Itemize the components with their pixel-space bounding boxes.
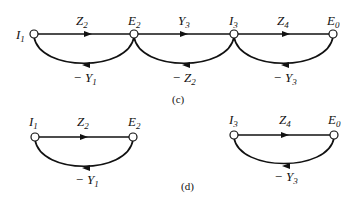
- node-label-I1: I1: [28, 114, 38, 131]
- edge-E2-I1-feedback: [34, 37, 134, 63]
- node-label-E0: E0: [327, 112, 341, 129]
- edge-label-neg-Y3: − Y3: [273, 70, 297, 87]
- edge-E0-I3-feedback: [234, 138, 334, 164]
- edge-I3-E2-feedback: [134, 37, 234, 63]
- edge-label-Y3: Y3: [178, 13, 190, 30]
- node-E2: [129, 133, 137, 141]
- graph-d-right: I3 E0 Z4 − Y3: [228, 112, 341, 186]
- node-label-E2: E2: [127, 13, 141, 30]
- edge-label-Z2: Z2: [77, 114, 89, 131]
- edge-label-Z4: Z4: [277, 13, 289, 30]
- edge-label-Z4: Z4: [279, 112, 291, 129]
- arrow-icon: [180, 31, 188, 37]
- node-label-E2: E2: [127, 114, 141, 131]
- node-E0: [330, 131, 338, 139]
- node-E0: [329, 30, 337, 38]
- arrow-icon: [281, 132, 289, 138]
- arrow-icon: [80, 134, 88, 140]
- edge-E2-I1-feedback: [35, 140, 133, 166]
- node-I1: [31, 133, 39, 141]
- graph-d-left: I1 E2 Z2 − Y1: [28, 114, 141, 189]
- signal-flow-graph: I1 E2 I3 E0 Z2 Y3 Z4 − Y1 − Z2 − Y3 (c) …: [0, 0, 358, 210]
- graph-c: I1 E2 I3 E0 Z2 Y3 Z4 − Y1 − Z2 − Y3 (c): [15, 13, 340, 106]
- node-I1: [30, 30, 38, 38]
- node-I3: [230, 131, 238, 139]
- node-label-E0: E0: [326, 13, 340, 30]
- node-label-I1: I1: [15, 27, 25, 44]
- edge-E0-I3-feedback: [234, 37, 333, 63]
- edge-label-neg-Z2: − Z2: [172, 70, 196, 87]
- node-label-I3: I3: [228, 112, 238, 129]
- edge-label-Z2: Z2: [76, 13, 88, 30]
- node-I3: [230, 30, 238, 38]
- caption-c: (c): [172, 93, 185, 106]
- node-label-I3: I3: [228, 13, 238, 30]
- node-E2: [130, 30, 138, 38]
- edge-label-neg-Y1: − Y1: [73, 70, 97, 87]
- edge-label-neg-Y3: − Y3: [274, 169, 298, 186]
- edge-label-neg-Y1: − Y1: [75, 172, 99, 189]
- caption-d: (d): [181, 180, 194, 193]
- arrow-icon: [282, 31, 290, 37]
- arrow-icon: [84, 31, 92, 37]
